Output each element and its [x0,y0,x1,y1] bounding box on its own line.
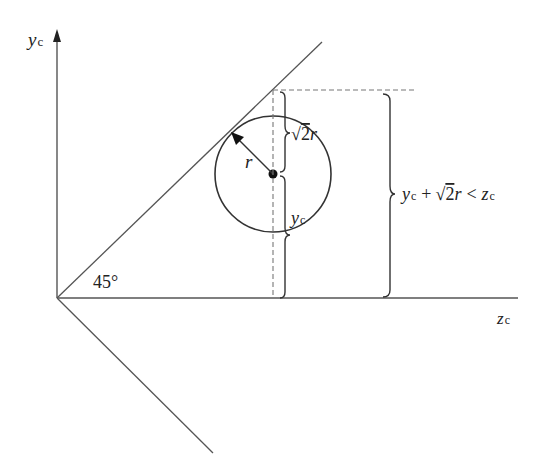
radius-label: r [245,151,253,172]
brace-total [383,94,395,297]
y-axis-label: yc [26,29,43,50]
y-axis-arrow-icon [53,29,61,42]
angle-label: 45° [93,272,118,292]
z-axis-label: zc [496,309,510,328]
brace-yc [280,176,290,298]
condition-label: yc+√2r<zc [400,184,495,204]
brace-yc-label: yc [289,208,305,228]
diagram-canvas: yc zc 45° r √2r yc yc+√2r<zc [0,0,549,475]
y-axis [53,29,61,298]
lower-cone-line [57,298,213,453]
brace-sqrt2r [280,92,290,172]
upper-cone-line [57,42,322,298]
brace-sqrt2r-label: √2r [291,124,318,144]
